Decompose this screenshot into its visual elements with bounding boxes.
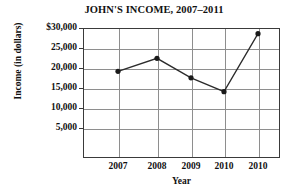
x-axis-title: Year — [83, 176, 280, 186]
data-point — [188, 75, 193, 80]
income-line-chart: JOHN'S INCOME, 2007–2011 Income (in doll… — [0, 0, 308, 195]
y-tick-label: $30,000 — [17, 22, 77, 32]
y-tick-label: 15,000 — [17, 82, 77, 92]
x-tick-label: 2010 — [235, 161, 281, 171]
data-point — [255, 31, 260, 36]
data-point — [154, 56, 159, 61]
y-tick-label: 20,000 — [17, 62, 77, 72]
y-tick-label: 5,000 — [17, 122, 77, 132]
income-markers — [115, 31, 260, 94]
chart-title: JOHN'S INCOME, 2007–2011 — [0, 4, 308, 15]
income-line — [118, 34, 258, 92]
data-point — [115, 69, 120, 74]
y-tick-label: 10,000 — [17, 102, 77, 112]
y-tick-label: 25,000 — [17, 42, 77, 52]
data-point — [221, 89, 226, 94]
data-series-layer — [83, 28, 280, 158]
